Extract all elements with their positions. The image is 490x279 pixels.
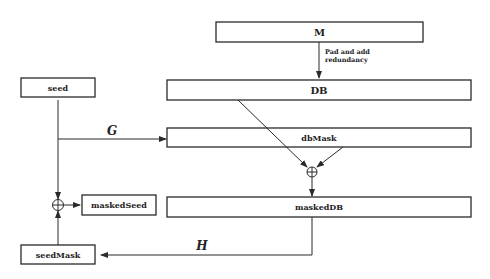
- box-seedmask: seedMask: [21, 245, 95, 264]
- box-dbmask: dbMask: [167, 128, 471, 147]
- box-maskeddb-label: maskedDB: [295, 202, 343, 212]
- oaep-diagram: M Pad and add redundancy DB seed G dbMas…: [0, 0, 490, 279]
- box-seedmask-label: seedMask: [36, 250, 81, 260]
- box-db-label: DB: [310, 85, 327, 96]
- box-seed-label: seed: [48, 83, 69, 93]
- box-m: M: [216, 22, 423, 42]
- box-m-label: M: [314, 27, 325, 38]
- g-label: G: [107, 124, 117, 138]
- box-seed: seed: [21, 78, 95, 97]
- box-maskedseed: maskedSeed: [82, 195, 156, 215]
- xor-db-icon: [307, 167, 317, 177]
- box-maskedseed-label: maskedSeed: [91, 200, 147, 210]
- dbmask-to-xor-arrow: [317, 147, 343, 167]
- xor-seed-icon: [53, 200, 64, 211]
- box-dbmask-label: dbMask: [301, 133, 337, 143]
- h-label: H: [195, 239, 208, 253]
- box-db: DB: [167, 80, 471, 100]
- pad-label-line2: redundancy: [325, 56, 368, 64]
- pad-label-line1: Pad and add: [325, 48, 370, 56]
- box-maskeddb: maskedDB: [167, 197, 471, 217]
